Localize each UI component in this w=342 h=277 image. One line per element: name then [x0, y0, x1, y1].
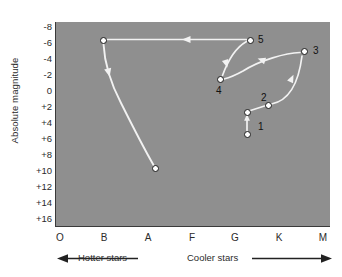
evolution-tracks	[104, 40, 303, 166]
evolution-track	[224, 53, 300, 80]
data-point	[152, 165, 159, 172]
chart-canvas: Absolute magnitude -8-6-4-20+2+4+6+8+10+…	[0, 0, 342, 277]
data-point	[301, 48, 308, 55]
track-direction-arrows	[104, 36, 293, 121]
plot-graphics	[0, 0, 342, 277]
data-point	[244, 131, 251, 138]
data-point-label: 2	[261, 93, 267, 103]
evolution-track	[251, 106, 265, 111]
track-arrow-icon	[182, 36, 191, 43]
data-point	[217, 76, 224, 83]
data-point	[247, 37, 254, 44]
data-point-label: 4	[216, 86, 222, 96]
temperature-direction-legend: Hotter stars Cooler stars	[55, 250, 335, 268]
track-arrow-icon	[287, 75, 293, 83]
data-point-label: 1	[258, 122, 264, 132]
track-arrow-icon	[222, 59, 228, 67]
data-point-label: 3	[313, 46, 319, 56]
evolution-track	[104, 44, 154, 165]
cooler-stars-label: Cooler stars	[187, 252, 238, 264]
evolution-track	[272, 56, 303, 104]
data-point	[100, 37, 107, 44]
hotter-stars-label: Hotter stars	[78, 252, 127, 264]
data-point	[244, 109, 251, 116]
data-point-label: 5	[258, 35, 264, 45]
